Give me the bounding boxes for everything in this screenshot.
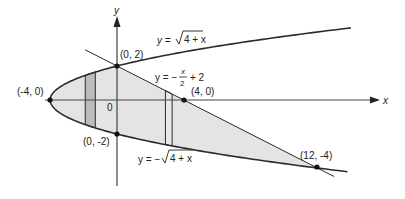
svg-text:4 + x: 4 + x [184,34,206,45]
svg-text:y =: y = [156,35,171,46]
point-label-12-neg4: (12, -4) [300,150,332,161]
x-axis-label: x [382,95,389,106]
svg-text:y = −: y = − [155,72,177,83]
equation-lower: y = − 4 + x [138,150,193,165]
equation-line: y = − x 2 + 2 [155,67,205,88]
origin-label: 0 [107,102,113,113]
point-label-4-0: (4, 0) [191,86,214,97]
svg-text:2: 2 [180,79,185,88]
svg-text:4 + x: 4 + x [170,153,192,164]
x-axis-arrow-icon [370,97,380,104]
svg-text:+ 2: + 2 [190,72,205,83]
point-label-0-neg2: (0, -2) [83,136,110,147]
strip-right [165,91,172,146]
point-label-neg4-0: (-4, 0) [17,86,44,97]
y-axis-label: y [113,5,120,16]
region-diagram: y x 0 (0, 2) (-4, 0) (4, 0) (0, -2) (12,… [0,0,405,199]
y-axis-arrow-icon [114,16,121,27]
point-label-0-2: (0, 2) [120,49,143,60]
svg-text:y = −: y = − [138,154,160,165]
equation-upper: y = 4 + x [156,31,206,46]
svg-text:x: x [180,67,186,76]
